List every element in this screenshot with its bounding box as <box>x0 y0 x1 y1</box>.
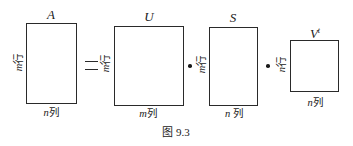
row-unit: 行 <box>13 54 24 64</box>
row-var: m <box>13 64 24 72</box>
matrix-u-name: U <box>144 9 153 24</box>
matrix-vt-title: Vt <box>295 24 335 40</box>
figure-caption: 图 9.3 <box>146 126 206 138</box>
matrix-s-name: S <box>230 10 237 25</box>
row-unit: 行 <box>100 55 111 65</box>
matrix-a-row-label: m行 <box>13 43 24 83</box>
matrix-vt-box <box>290 40 339 92</box>
equals-sign-icon <box>85 61 98 70</box>
matrix-vt-row-label: n行 <box>276 45 287 85</box>
multiply-dot-icon <box>266 64 270 68</box>
col-unit: 列 <box>49 107 59 118</box>
matrix-a-col-label: n列 <box>31 107 71 118</box>
matrix-s-col-label: n 列 <box>214 108 254 119</box>
matrix-a-title: A <box>31 8 71 21</box>
matrix-s-title: S <box>213 11 253 24</box>
col-var: n <box>225 108 230 119</box>
row-unit: 行 <box>276 57 287 67</box>
col-unit: 列 <box>313 97 323 108</box>
matrix-a-name: A <box>47 7 55 22</box>
matrix-s-box <box>209 27 258 106</box>
matrix-u-title: U <box>129 10 169 23</box>
row-var: n <box>276 67 287 72</box>
row-var: m <box>100 65 111 73</box>
col-unit: 列 <box>147 108 157 119</box>
col-unit: 列 <box>233 108 243 119</box>
matrix-u-row-label: m行 <box>100 44 111 84</box>
row-var: m <box>196 66 207 74</box>
multiply-dot-icon <box>188 64 192 68</box>
matrix-u-box <box>114 26 184 106</box>
matrix-a-box <box>26 23 77 104</box>
matrix-s-row-label: m行 <box>196 45 207 85</box>
transpose-superscript: t <box>318 26 320 35</box>
row-unit: 行 <box>196 56 207 66</box>
matrix-u-col-label: m列 <box>128 108 168 119</box>
matrix-vt-col-label: n列 <box>295 97 335 108</box>
col-var: m <box>139 108 147 119</box>
